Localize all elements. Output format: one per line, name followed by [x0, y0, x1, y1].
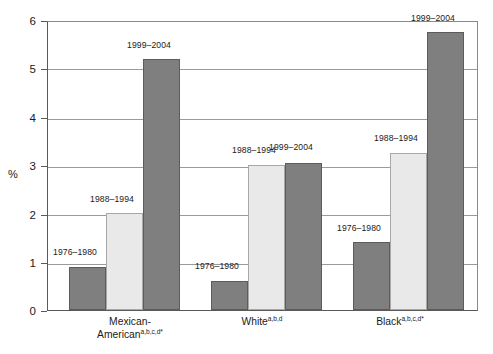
y-tick-label-2: 2	[12, 209, 36, 221]
x-axis-label-white-text: White	[242, 316, 268, 327]
y-tick-label-1: 1	[12, 257, 36, 269]
bar-white-1999-2004	[285, 163, 322, 310]
x-axis-label-black: Blacka,b,c,d*	[340, 316, 460, 329]
bar-chart: % 6 5 4 3 2 1 0 1976–1980 1988–1994 1999…	[0, 0, 493, 354]
x-axis-label-mexican-american-line2: American	[97, 329, 141, 340]
bar-white-1988-1994	[248, 165, 285, 310]
x-axis-label-mexican-american-superscript: a,b,c,d*	[141, 327, 163, 334]
y-tick-mark-0	[41, 311, 47, 312]
bar-label-white-1999-2004: 1999–2004	[269, 142, 313, 152]
bar-label-black-1976-1980: 1976–1980	[337, 223, 381, 233]
bar-label-black-1988-1994: 1988–1994	[374, 133, 418, 143]
bar-black-1999-2004	[427, 32, 464, 310]
bar-black-1976-1980	[353, 242, 390, 310]
bar-label-white-1976-1980: 1976–1980	[195, 261, 239, 271]
bar-black-1988-1994	[390, 153, 427, 310]
bar-white-1976-1980	[211, 281, 248, 310]
bar-label-black-1999-2004: 1999–2004	[411, 13, 455, 23]
x-axis-label-mexican-american: Mexican- Americana,b,c,d*	[70, 316, 190, 341]
x-axis-label-black-superscript: a,b,c,d*	[401, 315, 423, 322]
bar-label-mexican-american-1988-1994: 1988–1994	[90, 194, 134, 204]
y-tick-label-3: 3	[12, 160, 36, 172]
bar-label-mexican-american-1999-2004: 1999–2004	[127, 40, 171, 50]
bar-mexican-american-1999-2004	[143, 59, 180, 310]
y-tick-label-0: 0	[12, 305, 36, 317]
x-axis-label-mexican-american-line1: Mexican-	[109, 316, 151, 327]
x-axis-label-black-text: Black	[376, 316, 401, 327]
bar-mexican-american-1976-1980	[69, 267, 106, 311]
x-axis-label-white-superscript: a,b,d	[268, 315, 283, 322]
plot-area	[47, 21, 478, 311]
x-axis-label-white: Whitea,b,d	[202, 316, 322, 329]
y-tick-label-5: 5	[12, 63, 36, 75]
y-tick-label-4: 4	[12, 112, 36, 124]
gridline-5	[48, 69, 477, 70]
bar-mexican-american-1988-1994	[106, 213, 143, 310]
bar-label-mexican-american-1976-1980: 1976–1980	[53, 247, 97, 257]
gridline-4	[48, 119, 477, 120]
y-tick-label-6: 6	[12, 15, 36, 27]
